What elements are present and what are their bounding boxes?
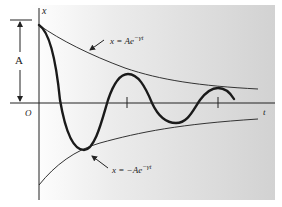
lower-envelope-base: x = −Ae	[111, 165, 142, 175]
origin-label: O	[25, 108, 32, 118]
x-axis-label: x	[41, 5, 47, 16]
lower-envelope-exponent: −γt	[142, 163, 152, 171]
damped-oscillation-figure: x t O A x = Ae−γt x = −Ae−γt	[0, 0, 282, 207]
diagram-canvas: x t O A x = Ae−γt x = −Ae−γt	[0, 0, 282, 207]
upper-envelope-base: x = Ae	[109, 36, 134, 46]
amplitude-label: A	[15, 54, 23, 66]
upper-envelope-exponent: −γt	[134, 34, 144, 42]
